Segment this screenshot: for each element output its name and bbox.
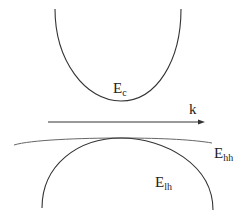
- band-diagram: Ec k Ehh Elh: [0, 0, 248, 223]
- conduction-band-label: Ec: [113, 80, 127, 98]
- k-axis-arrowhead-icon: [198, 120, 205, 125]
- light-hole-band-label: Elh: [155, 174, 172, 192]
- heavy-hole-band-label: Ehh: [214, 145, 233, 163]
- k-axis-label: k: [189, 101, 197, 117]
- heavy-hole-band-curve: [14, 138, 212, 145]
- light-hole-band-curve: [42, 138, 213, 210]
